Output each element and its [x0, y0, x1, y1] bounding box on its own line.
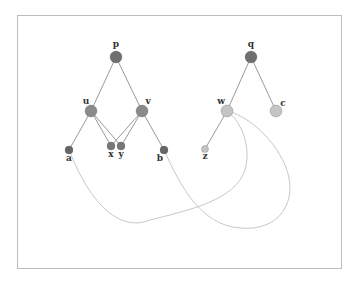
node-a: a [65, 146, 73, 163]
curve-b-w [164, 111, 290, 228]
node-w: w [216, 96, 233, 117]
node-q: q [245, 39, 257, 63]
tree-edges [69, 57, 276, 150]
node-v: v [136, 96, 151, 117]
node-label: u [83, 96, 90, 106]
node-y: y [117, 142, 125, 159]
node-circle [245, 51, 257, 63]
edge-u-y [91, 111, 121, 146]
node-label: a [66, 153, 72, 163]
diagram-frame [18, 16, 342, 269]
node-label: c [280, 98, 286, 108]
node-label: w [216, 96, 225, 106]
edge-w-z [205, 111, 227, 149]
tree-diagram: puvaxybqwcz [0, 0, 358, 284]
node-label: z [202, 151, 207, 161]
edge-v-x [111, 111, 142, 146]
edge-p-v [116, 57, 142, 111]
edge-q-w [227, 57, 251, 111]
node-p: p [110, 39, 122, 63]
node-z: z [202, 146, 209, 162]
node-c: c [270, 98, 286, 117]
node-circle [85, 105, 97, 117]
cross-curves [69, 111, 290, 228]
node-label: x [108, 149, 114, 159]
edge-u-a [69, 111, 91, 150]
node-circle [136, 105, 148, 117]
node-label: b [157, 153, 163, 163]
curve-a-w [69, 111, 247, 223]
edge-v-b [142, 111, 164, 150]
node-label: y [117, 149, 124, 159]
edge-p-u [91, 57, 116, 111]
node-label: p [113, 39, 119, 49]
node-label: q [248, 39, 255, 49]
tree-nodes: puvaxybqwcz [65, 39, 286, 163]
node-x: x [107, 142, 115, 159]
node-circle [110, 51, 122, 63]
edge-q-c [251, 57, 276, 111]
node-u: u [83, 96, 97, 117]
node-label: v [144, 96, 151, 106]
node-circle [221, 105, 233, 117]
